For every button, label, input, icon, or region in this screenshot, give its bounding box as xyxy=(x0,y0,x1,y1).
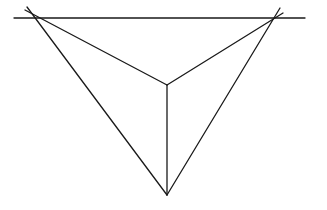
left-vp-to-bottom-line xyxy=(27,7,167,195)
perspective-diagram xyxy=(0,0,327,210)
two-point-perspective-drawing xyxy=(0,0,327,210)
right-vp-to-bottom-line xyxy=(167,8,280,195)
diagram-lines xyxy=(14,7,305,195)
right-vp-to-top-line xyxy=(167,13,283,85)
left-vp-to-top-line xyxy=(25,10,167,85)
